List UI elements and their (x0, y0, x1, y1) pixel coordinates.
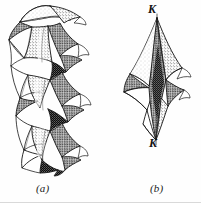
annotation-k-bottom: K (149, 136, 157, 151)
caption-panel-a: (a) (36, 182, 49, 194)
annotation-k-top: K (148, 2, 156, 17)
caption-panel-b: (b) (150, 182, 163, 194)
page-bottom-edge (0, 202, 201, 203)
figure-illustration: K K (a) (b) (0, 0, 201, 203)
illustration-canvas (0, 0, 201, 203)
